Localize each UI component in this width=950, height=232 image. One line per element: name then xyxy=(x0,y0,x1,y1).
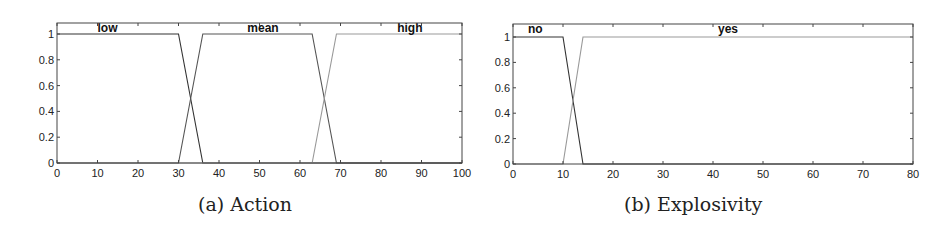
x-tick-label: 40 xyxy=(707,168,719,180)
x-tick-label: 60 xyxy=(294,167,306,179)
series-line-low xyxy=(57,34,462,163)
x-tick-label: 80 xyxy=(907,168,919,180)
x-tick-label: 30 xyxy=(657,168,669,180)
x-tick-label: 20 xyxy=(132,167,144,179)
y-tick-label: 0.6 xyxy=(495,82,510,94)
y-tick-label: 1 xyxy=(504,31,510,43)
y-tick-label: 0.4 xyxy=(495,107,510,119)
x-tick-label: 10 xyxy=(91,167,103,179)
x-tick-label: 60 xyxy=(807,168,819,180)
chart-panel-explosivity: noyes0102030405060708000.20.40.60.81 (b)… xyxy=(475,0,950,232)
y-tick-label: 0 xyxy=(504,158,510,170)
y-tick-label: 0.8 xyxy=(495,56,510,68)
x-tick-label: 0 xyxy=(54,167,60,179)
x-tick-label: 50 xyxy=(757,168,769,180)
y-tick-label: 0 xyxy=(48,157,54,169)
caption-action: (a) Action xyxy=(198,193,292,215)
axes-box xyxy=(513,24,913,164)
caption-explosivity: (b) Explosivity xyxy=(624,193,762,215)
x-tick-label: 10 xyxy=(557,168,569,180)
y-tick-label: 0.2 xyxy=(39,131,54,143)
x-tick-label: 20 xyxy=(607,168,619,180)
y-tick-label: 0.8 xyxy=(39,54,54,66)
x-tick-label: 70 xyxy=(857,168,869,180)
x-tick-label: 30 xyxy=(172,167,184,179)
series-line-mean xyxy=(57,34,462,163)
series-line-high xyxy=(57,34,462,163)
y-tick-label: 0.6 xyxy=(39,80,54,92)
chart-panel-action: lowmeanhigh010203040506070809010000.20.4… xyxy=(0,0,475,232)
x-tick-label: 50 xyxy=(253,167,265,179)
x-tick-label: 0 xyxy=(510,168,516,180)
x-tick-label: 100 xyxy=(453,167,471,179)
series-line-yes xyxy=(513,37,913,164)
y-tick-label: 0.2 xyxy=(495,133,510,145)
x-tick-label: 80 xyxy=(375,167,387,179)
y-tick-label: 0.4 xyxy=(39,105,54,117)
x-tick-label: 90 xyxy=(415,167,427,179)
x-tick-label: 70 xyxy=(334,167,346,179)
x-tick-label: 40 xyxy=(213,167,225,179)
y-tick-label: 1 xyxy=(48,28,54,40)
axes-box xyxy=(57,23,462,163)
